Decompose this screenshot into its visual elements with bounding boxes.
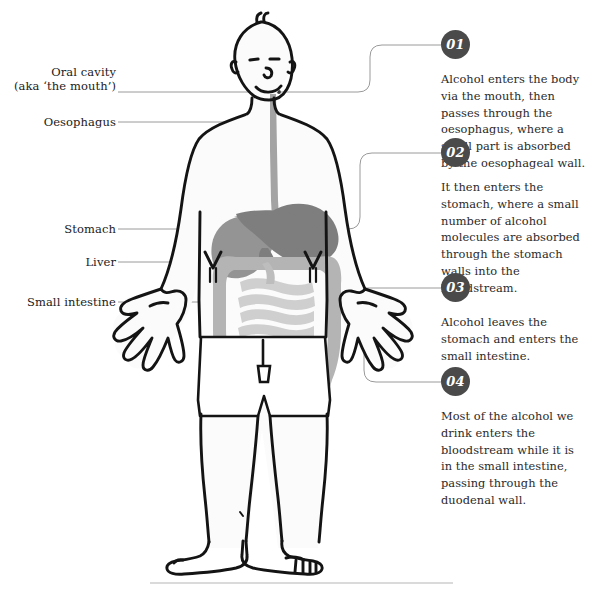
bottom-divider-layer — [0, 0, 603, 595]
diagram-canvas: Oral cavity (aka ‘the mouth’) Oesophagus… — [0, 0, 603, 595]
